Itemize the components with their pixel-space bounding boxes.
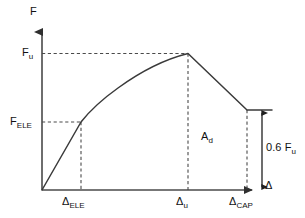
area-label: Ad bbox=[201, 131, 213, 143]
delta-cap-label: ΔCAP bbox=[229, 196, 253, 208]
capacity-curve bbox=[42, 54, 272, 191]
diagram-canvas bbox=[0, 0, 305, 218]
force-displacement-diagram: F Fu FELE Δ ΔELE Δu ΔCAP Ad 0.6 Fu bbox=[0, 0, 305, 218]
x-axis-label: Δ bbox=[265, 180, 272, 191]
delta-ele-label: ΔELE bbox=[62, 196, 85, 208]
delta-u-label: Δu bbox=[176, 196, 188, 208]
dimension-label: 0.6 Fu bbox=[266, 142, 296, 154]
fu-label: Fu bbox=[22, 47, 33, 59]
y-axis-label: F bbox=[30, 6, 37, 17]
fele-label: FELE bbox=[10, 116, 32, 128]
